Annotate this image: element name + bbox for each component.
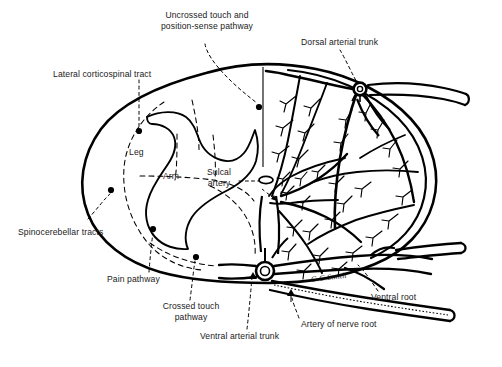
figure-canvas: Uncrossed touch and position-sense pathw… [0, 0, 502, 367]
label-arm: Arm [163, 171, 179, 182]
artery-of-nerve-root-arrow [287, 289, 295, 302]
label-pain-pathway: Pain pathway [107, 274, 160, 285]
label-dorsal-arterial-trunk: Dorsal arterial trunk [301, 37, 378, 48]
dorsal-root-branch [357, 96, 390, 136]
dot-crossed-touch [193, 254, 199, 260]
artery-of-nerve-root [274, 285, 448, 315]
dot-spinocerebellar [108, 187, 114, 193]
spinal-cord-diagram [0, 0, 502, 367]
label-spinocerebellar-tracts: Spinocerebellar tracts [18, 227, 103, 238]
label-sulcal-artery: Sulcal artery [196, 167, 242, 189]
sulcal-artery-lumen [259, 176, 273, 183]
ventral-arterial-trunk-node [256, 262, 274, 280]
dorsal-root [368, 83, 469, 105]
cord-outline [82, 64, 436, 283]
label-ventral-root: Ventral root [371, 292, 416, 303]
anterior-median-fissure [260, 196, 279, 254]
label-leg: Leg [129, 147, 144, 158]
label-artery-of-nerve-root: Artery of nerve root [301, 319, 377, 330]
dot-uncrossed-touch [256, 104, 262, 110]
dot-lateral-corticospinal [136, 128, 142, 134]
anterior-spinal-artery-stub [265, 238, 288, 262]
dot-pain-pathway [150, 226, 156, 232]
label-uncrossed-touch-pathway: Uncrossed touch and position-sense pathw… [137, 10, 277, 32]
label-ventral-arterial-trunk: Ventral arterial trunk [200, 331, 279, 342]
label-lateral-corticospinal-tract: Lateral corticospinal tract [53, 69, 151, 80]
label-crossed-touch-pathway: Crossed touch pathway [141, 301, 241, 323]
